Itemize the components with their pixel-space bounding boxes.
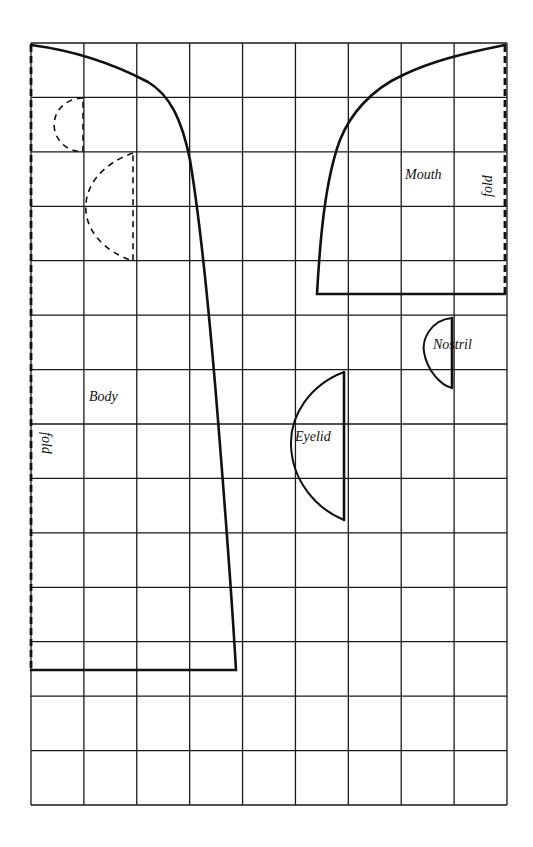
eyelid-piece: Eyelid — [291, 372, 344, 520]
mouth-fold-label: fold — [480, 174, 495, 197]
nostril-piece: Nostril — [424, 318, 472, 388]
body-dart-large — [86, 153, 133, 261]
eyelid-label: Eyelid — [294, 429, 332, 444]
nostril-label: Nostril — [432, 337, 472, 352]
grid — [31, 43, 507, 805]
body-piece: Body fold — [31, 45, 236, 670]
body-label: Body — [89, 389, 119, 404]
nostril-curve — [424, 318, 452, 388]
body-fold-label: fold — [39, 432, 54, 455]
pattern-diagram: Body fold Mouth fold Eyelid Nostril — [0, 0, 533, 847]
body-outline — [31, 45, 236, 670]
mouth-label: Mouth — [404, 167, 442, 182]
body-dart-small — [54, 98, 83, 152]
mouth-piece: Mouth fold — [317, 45, 505, 294]
eyelid-curve — [291, 372, 344, 520]
